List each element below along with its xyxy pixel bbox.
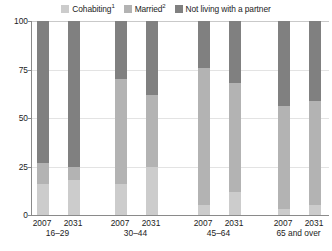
x-axis-year-row: 20072031 xyxy=(271,218,326,228)
legend-swatch-icon xyxy=(175,5,183,13)
stacked-bar-chart: Cohabiting1Married2Not living with a par… xyxy=(0,0,332,251)
y-axis-tick-label: 100 xyxy=(14,17,28,25)
x-axis-group-3: 2007203165 and over xyxy=(271,218,326,239)
bar-segment-not-living xyxy=(229,21,241,83)
x-axis-year-row: 20072031 xyxy=(30,218,85,228)
x-axis-year-label: 2031 xyxy=(222,218,246,228)
bar-2031-group-1[interactable] xyxy=(146,21,158,215)
y-axis-tick-label: 50 xyxy=(19,114,28,122)
x-axis-group-label: 65 and over xyxy=(271,228,326,239)
x-axis-group-2: 2007203145–64 xyxy=(191,218,246,239)
legend-item-label: Cohabiting1 xyxy=(72,5,114,14)
bar-segment-cohabiting xyxy=(68,180,80,215)
x-axis-group-label: 30–44 xyxy=(108,228,163,239)
x-axis: 2007203116–292007203130–442007203145–642… xyxy=(31,218,328,251)
bar-segment-married xyxy=(146,95,158,167)
x-axis-year-label: 2031 xyxy=(302,218,326,228)
x-axis-year-label: 2031 xyxy=(139,218,163,228)
bar-segment-cohabiting xyxy=(37,184,49,215)
plot-area xyxy=(31,21,329,216)
bar-segment-married xyxy=(229,83,241,192)
bar-segment-not-living xyxy=(309,21,321,101)
y-axis-tick-label: 25 xyxy=(19,163,28,171)
bar-segment-married xyxy=(309,101,321,206)
x-axis-year-label: 2007 xyxy=(30,218,54,228)
bar-segment-cohabiting xyxy=(115,184,127,215)
bar-segment-married xyxy=(278,106,290,209)
x-axis-year-label: 2031 xyxy=(61,218,85,228)
x-axis-year-label: 2007 xyxy=(108,218,132,228)
bar-2031-group-0[interactable] xyxy=(68,21,80,215)
y-axis: 0255075100 xyxy=(0,18,28,218)
bar-segment-cohabiting xyxy=(198,205,210,215)
x-axis-group-0: 2007203116–29 xyxy=(30,218,85,239)
y-axis-tick-label: 75 xyxy=(19,66,28,74)
bar-segment-cohabiting xyxy=(229,192,241,215)
bar-segment-not-living xyxy=(37,21,49,163)
legend-item-cohabiting[interactable]: Cohabiting1 xyxy=(61,5,114,14)
x-axis-year-label: 2007 xyxy=(191,218,215,228)
bars-layer xyxy=(32,21,329,215)
legend-item-label: Not living with a partner xyxy=(186,5,271,14)
x-axis-year-label: 2007 xyxy=(271,218,295,228)
bar-segment-cohabiting xyxy=(146,167,158,216)
y-axis-tickmark xyxy=(28,215,32,216)
bar-segment-married xyxy=(115,79,127,184)
bar-2031-group-3[interactable] xyxy=(309,21,321,215)
bar-2007-group-2[interactable] xyxy=(198,21,210,215)
legend-swatch-icon xyxy=(61,5,69,13)
bar-segment-not-living xyxy=(198,21,210,68)
legend-swatch-icon xyxy=(124,5,132,13)
legend-footnote-marker: 1 xyxy=(111,3,114,9)
bar-segment-married xyxy=(68,167,80,181)
bar-segment-cohabiting xyxy=(278,209,290,215)
bar-segment-not-living xyxy=(278,21,290,106)
bar-segment-not-living xyxy=(68,21,80,167)
x-axis-year-row: 20072031 xyxy=(108,218,163,228)
legend-item-not_living[interactable]: Not living with a partner xyxy=(175,5,271,14)
x-axis-group-label: 16–29 xyxy=(30,228,85,239)
x-axis-group-label: 45–64 xyxy=(191,228,246,239)
bar-segment-married xyxy=(198,68,210,206)
bar-2031-group-2[interactable] xyxy=(229,21,241,215)
x-axis-group-1: 2007203130–44 xyxy=(108,218,163,239)
x-axis-year-row: 20072031 xyxy=(191,218,246,228)
chart-legend: Cohabiting1Married2Not living with a par… xyxy=(0,0,332,18)
bar-segment-married xyxy=(37,163,49,184)
bar-2007-group-0[interactable] xyxy=(37,21,49,215)
bar-segment-cohabiting xyxy=(309,205,321,215)
legend-item-married[interactable]: Married2 xyxy=(124,5,166,14)
legend-item-label: Married2 xyxy=(135,5,166,14)
bar-segment-not-living xyxy=(115,21,127,79)
plot-wrapper: 0255075100 2007203116–292007203130–44200… xyxy=(0,18,332,251)
bar-2007-group-1[interactable] xyxy=(115,21,127,215)
legend-footnote-marker: 2 xyxy=(162,3,165,9)
bar-2007-group-3[interactable] xyxy=(278,21,290,215)
bar-segment-not-living xyxy=(146,21,158,95)
